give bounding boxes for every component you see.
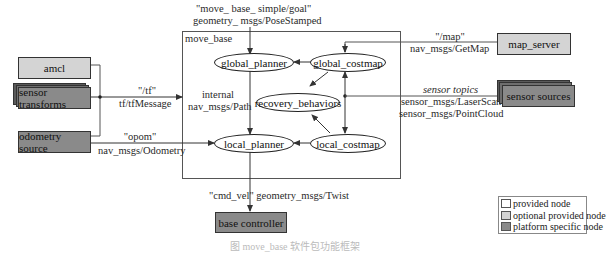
figure-caption: 图 move_base 软件包功能框架 (230, 238, 360, 253)
tf-type-label: tf/tfMessage (119, 98, 172, 109)
legend-item-provided: provided node (501, 198, 584, 210)
node-global-planner[interactable]: global_planner (214, 53, 294, 72)
swatch-provided-icon (501, 199, 511, 208)
node-local-costmap[interactable]: local_costmap (310, 134, 386, 153)
goal-type-label: geometry_ msgs/PoseStamped (193, 15, 322, 26)
legend: provided node optional provided node pla… (498, 196, 587, 234)
node-local-planner[interactable]: local_planner (214, 134, 294, 153)
move-base-container-label: move_base (185, 33, 232, 44)
node-recovery-behaviors[interactable]: recovery_behaviors (256, 93, 340, 112)
tf-topic-label: "/tf" (122, 85, 172, 96)
node-base-controller[interactable]: base controller (215, 212, 287, 233)
node-sensor-transforms[interactable]: sensor transforms (18, 87, 91, 109)
cmd-vel-label: "cmd_vel" geometry_msgs/Twist (209, 190, 349, 201)
swatch-optional-icon (501, 211, 511, 220)
node-map-server[interactable]: map_server (497, 33, 571, 55)
map-topic-label: "/map" (420, 31, 480, 42)
node-global-costmap[interactable]: global_costmap (310, 53, 386, 72)
odom-topic-label: "opom" (115, 131, 165, 142)
swatch-platform-icon (501, 222, 511, 231)
legend-item-platform: platform specific node (501, 221, 584, 233)
map-type-label: nav_msgs/GetMap (410, 43, 489, 54)
node-sensor-sources[interactable]: sensor sources (502, 85, 575, 107)
internal-path-type-label: nav_msgs/Path (188, 101, 252, 112)
legend-item-optional: optional provided node (501, 210, 584, 222)
goal-topic-label: "move_ base_ simple/goal" (196, 3, 311, 14)
legend-label: platform specific node (513, 221, 603, 233)
legend-label: provided node (513, 198, 571, 210)
node-amcl[interactable]: amcl (18, 57, 91, 79)
internal-path-label: internal (198, 89, 238, 100)
sensor-pointcloud-label: sensor_msgs/PointCloud (399, 108, 503, 119)
odom-type-label: nav_msgs/Odometry (98, 145, 186, 156)
node-odometry-source[interactable]: odometry source (18, 131, 91, 153)
legend-label: optional provided node (513, 210, 606, 222)
sensor-laserscan-label: sensor_msgs/LaserScan (401, 96, 501, 107)
sensor-topics-label: sensor topics (423, 84, 478, 95)
